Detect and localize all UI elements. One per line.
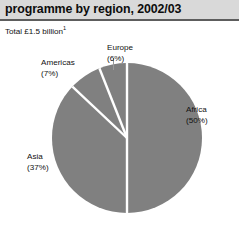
slice-label-africa: Africa (50%) (186, 105, 208, 126)
slice-label-asia-name: Asia (27, 152, 43, 161)
slice-label-europe-name: Europe (107, 43, 133, 52)
pie-chart-figure: programme by region, 2002/03 Total £1.5 … (0, 0, 239, 231)
slice-label-americas: Americas (7%) (41, 58, 75, 79)
slice-label-africa-name: Africa (186, 105, 207, 114)
slice-label-asia: Asia (37%) (27, 152, 49, 173)
slice-label-africa-percent: (50%) (186, 116, 208, 127)
slice-label-europe: Europe (6%) (107, 43, 133, 64)
slice-label-asia-percent: (37%) (27, 163, 49, 174)
slice-label-americas-name: Americas (41, 58, 75, 67)
slice-label-americas-percent: (7%) (41, 69, 75, 80)
slice-label-europe-percent: (6%) (107, 54, 133, 65)
